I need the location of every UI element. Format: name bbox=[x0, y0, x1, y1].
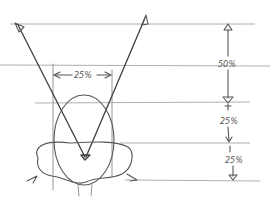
guide-line-bottom bbox=[125, 180, 260, 181]
section-25-bottom-label: 25% bbox=[225, 156, 243, 165]
neck-line-left bbox=[78, 184, 79, 196]
ray-right bbox=[86, 18, 145, 157]
section-50-label: 50% bbox=[218, 60, 236, 69]
v-rays bbox=[15, 15, 148, 160]
width-dimension: 25% bbox=[54, 71, 111, 80]
vertex-marker-icon bbox=[81, 155, 90, 160]
proportion-sketch: 25% 50% 25% 25% bbox=[0, 0, 270, 218]
width-label: 25% bbox=[74, 71, 92, 80]
arrowhead-up-icon bbox=[224, 24, 232, 30]
dimension-25-middle-line bbox=[228, 127, 229, 141]
ray-left bbox=[18, 25, 85, 157]
section-25-middle-label: 25% bbox=[220, 117, 238, 126]
neck-line-right bbox=[91, 184, 92, 196]
arrowhead-top-right-icon bbox=[142, 15, 148, 25]
head-oval bbox=[54, 95, 114, 185]
side-ticks bbox=[27, 174, 137, 183]
side-tick-left-icon bbox=[27, 176, 37, 183]
body-blob bbox=[37, 142, 132, 183]
